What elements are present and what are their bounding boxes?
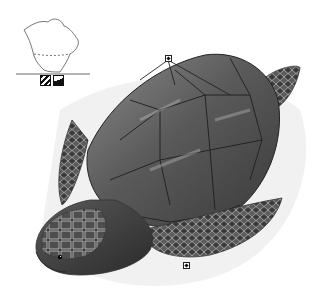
shore-habitat-icon [53, 75, 64, 86]
turtle-illustration [0, 0, 322, 299]
carapace-marker-icon [165, 55, 172, 62]
habitat-icons [40, 75, 64, 86]
ocean-habitat-icon [40, 75, 51, 86]
eye [58, 255, 62, 259]
flipper-marker-icon [183, 262, 190, 269]
range-map [16, 19, 90, 74]
